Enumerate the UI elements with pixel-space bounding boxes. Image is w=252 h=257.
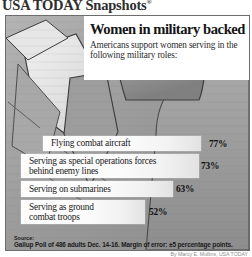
bar-row: Serving on submarines 63%	[21, 181, 247, 197]
masthead-title: USA TODAY Snapshots®	[2, 0, 250, 14]
graphic-frame: Women in military backed Americans suppo…	[5, 15, 250, 251]
bar-value: 63%	[176, 184, 194, 194]
snapshot-graphic: USA TODAY Snapshots®	[0, 0, 252, 257]
bar-value: 77%	[209, 139, 227, 149]
bar-value: 73%	[201, 161, 219, 171]
trademark-mark: ®	[147, 0, 152, 6]
bar-label: Serving as ground combat troops	[29, 202, 94, 222]
source-block: Source: Gallup Poll of 486 adults Dec. 1…	[14, 235, 243, 248]
page-title: Women in military backed	[90, 22, 242, 37]
bar-fill: Serving as ground combat troops	[21, 200, 145, 224]
bar-fill: Flying combat aircraft	[43, 136, 201, 151]
bar-label: Serving as special operations forces beh…	[29, 156, 156, 176]
bar-row: Flying combat aircraft 77%	[21, 136, 247, 151]
subtitle: Americans support women serving in the f…	[90, 40, 242, 61]
bar-value: 52%	[149, 207, 167, 217]
bar-label: Flying combat aircraft	[51, 138, 130, 148]
bar-fill: Serving on submarines	[21, 181, 173, 197]
bar-row: Serving as special operations forces beh…	[21, 154, 247, 178]
bar-row: Serving as ground combat troops 52%	[21, 200, 247, 224]
headline-panel: Women in military backed Americans suppo…	[84, 16, 249, 80]
source-text: Gallup Poll of 486 adults Dec. 14-16. Ma…	[14, 241, 243, 248]
masthead-text: USA TODAY Snapshots	[2, 0, 147, 13]
bar-label: Serving on submarines	[29, 184, 111, 194]
bar-fill: Serving as special operations forces beh…	[21, 154, 199, 178]
byline: By Marcy E. Mullins, USA TODAY	[170, 251, 248, 257]
bar-chart: Flying combat aircraft 77% Serving as sp…	[21, 136, 247, 227]
